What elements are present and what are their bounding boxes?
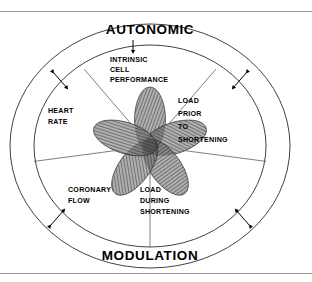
radial-diagram: AUTONOMIC MODULATION INTRINSIC CELL PERF… bbox=[0, 0, 312, 282]
outer-label-modulation: MODULATION bbox=[102, 248, 199, 263]
svg-text:PRIOR: PRIOR bbox=[178, 110, 202, 118]
svg-text:LOAD: LOAD bbox=[178, 97, 199, 105]
svg-text:CORONARY: CORONARY bbox=[68, 186, 111, 194]
svg-text:SHORTENING: SHORTENING bbox=[178, 136, 228, 144]
sector-label-intrinsic-cell-performance: INTRINSIC CELL PERFORMANCE bbox=[110, 56, 168, 84]
svg-text:DURING: DURING bbox=[140, 197, 170, 205]
outer-label-autonomic: AUTONOMIC bbox=[106, 22, 194, 37]
svg-text:FLOW: FLOW bbox=[68, 197, 90, 205]
double-arrow-lower-left bbox=[50, 210, 64, 226]
sector-label-heart-rate: HEART RATE bbox=[48, 107, 74, 126]
svg-text:INTRINSIC: INTRINSIC bbox=[110, 56, 148, 64]
svg-text:SHORTENING: SHORTENING bbox=[140, 208, 190, 216]
svg-text:PERFORMANCE: PERFORMANCE bbox=[110, 76, 168, 84]
svg-text:LOAD: LOAD bbox=[140, 186, 161, 194]
svg-text:CELL: CELL bbox=[110, 66, 130, 74]
double-arrow-upper-right bbox=[233, 72, 247, 88]
svg-text:TO: TO bbox=[178, 123, 188, 131]
sector-label-coronary-flow: CORONARY FLOW bbox=[68, 186, 111, 205]
double-arrow-lower-right bbox=[236, 210, 250, 226]
svg-text:RATE: RATE bbox=[48, 118, 68, 126]
double-arrow-upper-left bbox=[53, 72, 67, 88]
figure-canvas: AUTONOMIC MODULATION INTRINSIC CELL PERF… bbox=[0, 0, 312, 282]
svg-text:HEART: HEART bbox=[48, 107, 74, 115]
